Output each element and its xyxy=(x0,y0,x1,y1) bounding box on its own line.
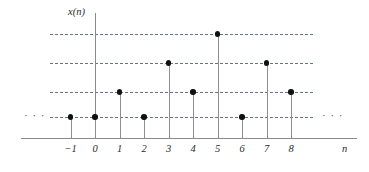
data-point-n3 xyxy=(166,60,171,65)
x-tick-label-1: 1 xyxy=(110,143,130,154)
data-point-n5 xyxy=(215,31,220,36)
data-point-n4 xyxy=(190,89,195,94)
x-tick-label-7: 7 xyxy=(257,143,277,154)
gridline-level-3 xyxy=(50,63,313,64)
x-tick-label-5: 5 xyxy=(208,143,228,154)
stem-n4 xyxy=(193,92,194,138)
stem-n6 xyxy=(242,117,243,138)
data-point-n7 xyxy=(264,60,269,65)
gridline-level-2 xyxy=(50,92,313,93)
gridline-level-4 xyxy=(50,34,313,35)
x-axis-label: n xyxy=(342,143,347,154)
x-tick-label-6: 6 xyxy=(232,143,252,154)
stem-n-1 xyxy=(71,117,72,138)
stem-n0 xyxy=(95,117,96,138)
stem-n2 xyxy=(144,117,145,138)
x-tick-label-8: 8 xyxy=(281,143,301,154)
stem-n5 xyxy=(218,34,219,138)
stem-n7 xyxy=(267,63,268,138)
x-tick-label--1: −1 xyxy=(61,143,81,154)
stem-n3 xyxy=(169,63,170,138)
left-ellipsis: · · · xyxy=(24,109,46,121)
data-point-n0 xyxy=(92,114,97,119)
stem-n8 xyxy=(291,92,292,138)
data-point-n6 xyxy=(239,114,244,119)
x-tick-label-4: 4 xyxy=(183,143,203,154)
x-axis xyxy=(21,138,357,139)
stem-plot-figure: −1012345678 x(n) n · · · · · · xyxy=(0,0,369,172)
data-point-n8 xyxy=(288,89,293,94)
stem-n1 xyxy=(120,92,121,138)
data-point-n2 xyxy=(141,114,146,119)
x-tick-label-2: 2 xyxy=(134,143,154,154)
data-point-n-1 xyxy=(68,114,73,119)
x-tick-label-3: 3 xyxy=(159,143,179,154)
right-ellipsis: · · · xyxy=(322,109,344,121)
gridline-level-1 xyxy=(50,117,313,118)
data-point-n1 xyxy=(117,89,122,94)
x-tick-label-0: 0 xyxy=(85,143,105,154)
y-axis-label: x(n) xyxy=(68,6,85,17)
